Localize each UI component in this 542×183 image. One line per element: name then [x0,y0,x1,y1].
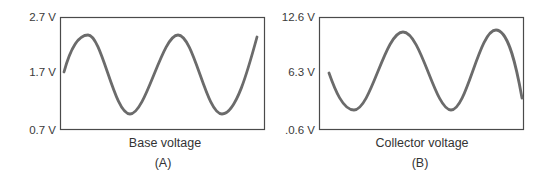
y-tick-mid: 1.7 V [29,66,56,78]
y-tick-bottom: 0.7 V [29,124,56,136]
y-tick-bottom: .0.6 V [285,124,315,136]
plot-title: Base voltage [115,136,215,150]
plot-frame [320,18,524,130]
base-voltage-plot [0,0,271,183]
plot-letter: (A) [143,156,183,170]
plot-frame [61,18,265,130]
base-voltage-curve [64,35,257,114]
panel-base-voltage: 2.7 V 1.7 V 0.7 V Base voltage (A) [0,0,271,183]
y-tick-mid: 6.3 V [288,66,315,78]
collector-voltage-curve [329,30,522,110]
plot-title: Collector voltage [362,136,482,150]
y-tick-top: 12.6 V [282,11,315,23]
plot-letter: (B) [400,156,440,170]
y-tick-top: 2.7 V [29,11,56,23]
panel-collector-voltage: 12.6 V 6.3 V .0.6 V Collector voltage (B… [271,0,542,183]
